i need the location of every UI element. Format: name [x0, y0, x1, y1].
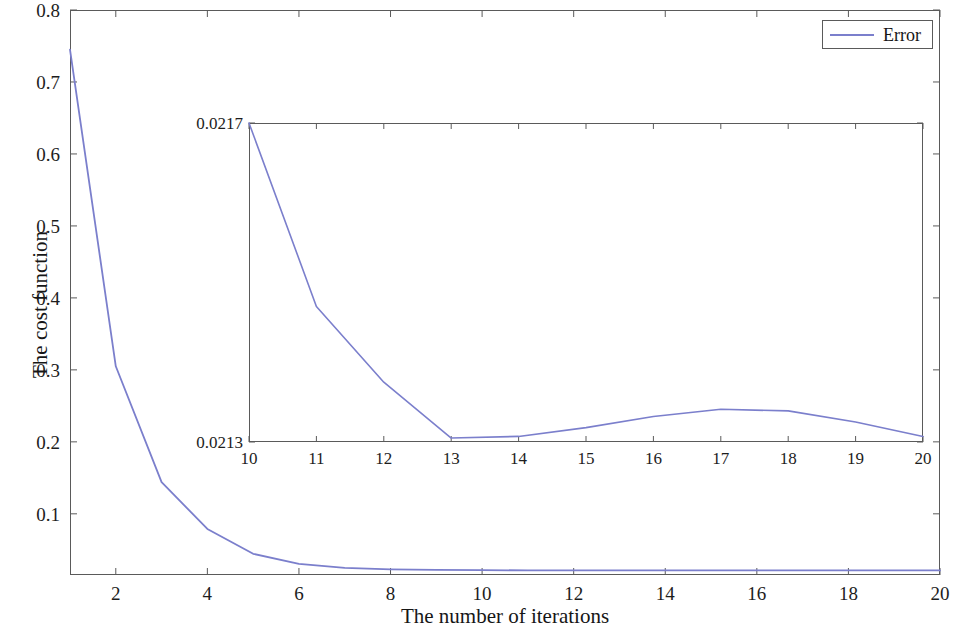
legend-entry-label: Error — [883, 26, 921, 44]
x-tick-label: 20 — [915, 450, 932, 467]
inset-plot-area — [0, 0, 964, 634]
figure-canvas: 2468101214161820 0.10.20.30.40.50.60.70.… — [0, 0, 964, 634]
legend[interactable]: Error — [822, 20, 933, 49]
x-tick-label: 12 — [375, 450, 392, 467]
x-tick-label: 19 — [847, 450, 864, 467]
x-tick-label: 18 — [780, 450, 797, 467]
x-tick-label: 16 — [645, 450, 662, 467]
x-tick-label: 13 — [443, 450, 460, 467]
x-tick-label: 11 — [308, 450, 324, 467]
series-line-error — [249, 123, 923, 438]
x-tick-label: 15 — [578, 450, 595, 467]
legend-line-swatch — [830, 34, 874, 36]
y-tick-label: 0.0217 — [0, 115, 243, 132]
y-tick-label: 0.0213 — [0, 434, 243, 451]
x-tick-label: 10 — [241, 450, 258, 467]
x-tick-label: 14 — [510, 450, 527, 467]
x-tick-label: 17 — [712, 450, 729, 467]
